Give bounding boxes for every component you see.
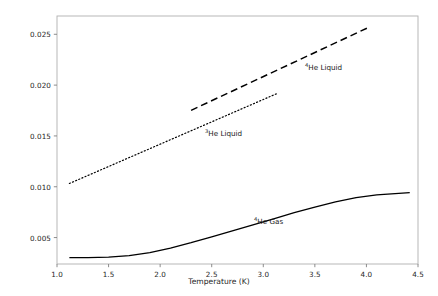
thermal-conductivity-chart: 0.0050.0100.0150.0200.025 1.01.52.02.53.… — [0, 0, 438, 296]
axes-spines — [57, 16, 418, 264]
series-annotation: 4He Gas — [254, 217, 283, 226]
axes-tick-marks — [54, 34, 418, 267]
plot-canvas — [0, 0, 438, 296]
series-line — [69, 93, 277, 183]
plot-frame — [57, 16, 418, 264]
data-series-lines — [69, 27, 409, 258]
series-line — [191, 27, 369, 110]
y-tick-label: 0.020 — [15, 81, 51, 90]
y-tick-label: 0.025 — [15, 30, 51, 39]
x-axis-label: Temperature (K) — [0, 277, 438, 286]
series-line — [69, 193, 409, 258]
y-tick-label: 0.015 — [15, 131, 51, 140]
y-tick-label: 0.005 — [15, 233, 51, 242]
series-annotation: 3He Liquid — [205, 129, 242, 138]
series-annotation: 4He Liquid — [305, 63, 342, 72]
y-tick-label: 0.010 — [15, 182, 51, 191]
